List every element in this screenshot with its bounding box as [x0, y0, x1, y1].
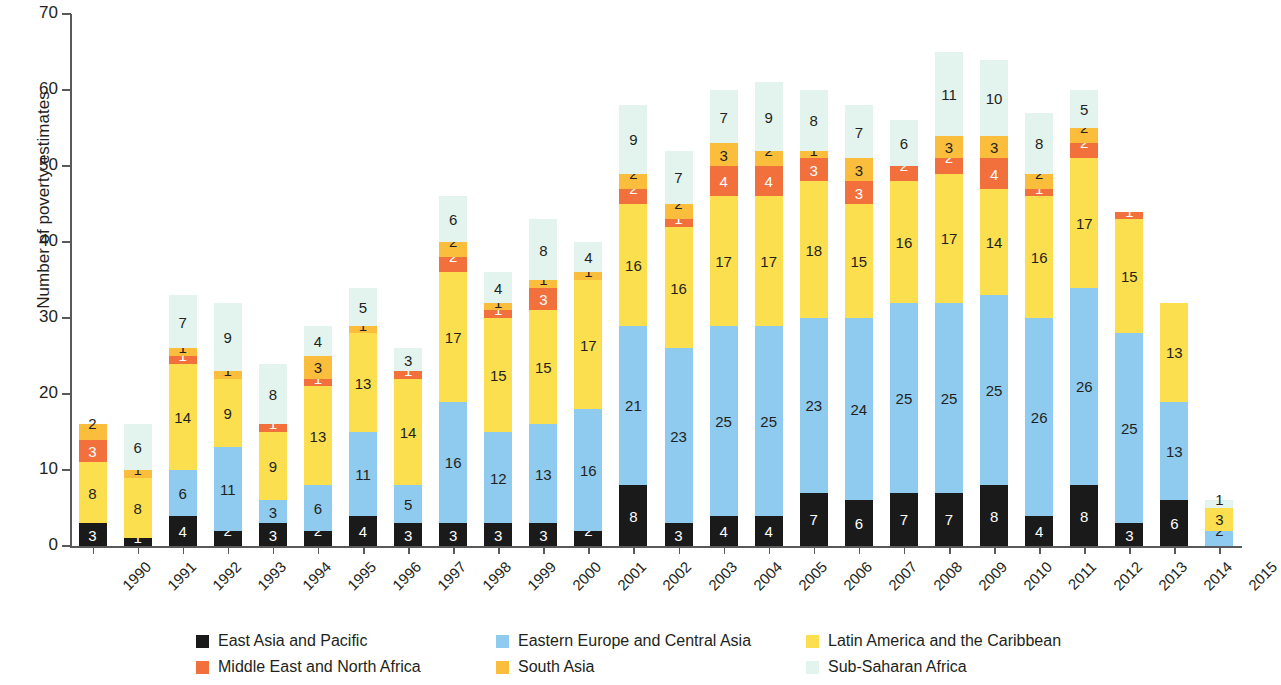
bar-segment-1995-south-asia[interactable]: 3 — [304, 356, 332, 379]
bar-segment-2011-latin-america-and-the-caribbean[interactable]: 16 — [1025, 196, 1053, 318]
bar-segment-2015-eastern-europe-and-central-asia[interactable]: 2 — [1205, 531, 1233, 546]
bar-segment-2006-latin-america-and-the-caribbean[interactable]: 18 — [800, 181, 828, 318]
bar-segment-2001-south-asia[interactable]: 1 — [574, 272, 602, 280]
bar-segment-2004-eastern-europe-and-central-asia[interactable]: 25 — [710, 326, 738, 516]
bar-segment-1999-eastern-europe-and-central-asia[interactable]: 12 — [484, 432, 512, 523]
bar-2013[interactable]: 325151 — [1115, 212, 1143, 546]
bar-segment-2013-east-asia-and-pacific[interactable]: 3 — [1115, 523, 1143, 546]
bar-segment-2003-eastern-europe-and-central-asia[interactable]: 23 — [665, 348, 693, 523]
bar-segment-1996-south-asia[interactable]: 1 — [349, 326, 377, 334]
bar-segment-2004-middle-east-and-north-africa[interactable]: 4 — [710, 166, 738, 196]
bar-segment-2006-south-asia[interactable]: 1 — [800, 151, 828, 159]
bar-segment-2005-latin-america-and-the-caribbean[interactable]: 17 — [755, 196, 783, 325]
bar-segment-1993-south-asia[interactable]: 1 — [214, 371, 242, 379]
bar-1990[interactable]: 3832 — [79, 424, 107, 546]
bar-2012[interactable]: 82617225 — [1070, 90, 1098, 546]
bar-1998[interactable]: 31617226 — [439, 196, 467, 546]
bar-segment-2005-south-asia[interactable]: 2 — [755, 151, 783, 166]
bar-segment-1991-east-asia-and-pacific[interactable]: 1 — [124, 538, 152, 546]
bar-segment-1990-east-asia-and-pacific[interactable]: 3 — [79, 523, 107, 546]
bar-segment-2009-middle-east-and-north-africa[interactable]: 2 — [935, 158, 963, 173]
bar-segment-2005-east-asia-and-pacific[interactable]: 4 — [755, 516, 783, 546]
bar-2005[interactable]: 42517429 — [755, 82, 783, 546]
bar-2004[interactable]: 42517437 — [710, 90, 738, 546]
bar-segment-2006-middle-east-and-north-africa[interactable]: 3 — [800, 158, 828, 181]
bar-segment-2011-east-asia-and-pacific[interactable]: 4 — [1025, 516, 1053, 546]
bar-segment-2008-middle-east-and-north-africa[interactable]: 2 — [890, 166, 918, 181]
bar-2007[interactable]: 62415337 — [845, 105, 873, 546]
bar-segment-2014-east-asia-and-pacific[interactable]: 6 — [1160, 500, 1188, 546]
bar-segment-2013-latin-america-and-the-caribbean[interactable]: 15 — [1115, 219, 1143, 333]
bar-segment-2007-middle-east-and-north-africa[interactable]: 3 — [845, 181, 873, 204]
bar-segment-2013-middle-east-and-north-africa[interactable]: 1 — [1115, 212, 1143, 220]
bar-segment-1996-sub-saharan-africa[interactable]: 5 — [349, 288, 377, 326]
bar-segment-1997-eastern-europe-and-central-asia[interactable]: 5 — [394, 485, 422, 523]
bar-segment-2005-middle-east-and-north-africa[interactable]: 4 — [755, 166, 783, 196]
bar-2010[interactable]: 825144310 — [980, 60, 1008, 546]
bar-segment-2010-latin-america-and-the-caribbean[interactable]: 14 — [980, 189, 1008, 295]
bar-2011[interactable]: 42616128 — [1025, 113, 1053, 546]
bar-segment-2000-east-asia-and-pacific[interactable]: 3 — [529, 523, 557, 546]
bar-segment-1990-middle-east-and-north-africa[interactable]: 3 — [79, 440, 107, 463]
bar-1993[interactable]: 211919 — [214, 303, 242, 546]
bar-segment-1998-south-asia[interactable]: 2 — [439, 242, 467, 257]
bar-segment-2011-south-asia[interactable]: 2 — [1025, 174, 1053, 189]
bar-segment-1991-sub-saharan-africa[interactable]: 6 — [124, 424, 152, 470]
bar-segment-1999-latin-america-and-the-caribbean[interactable]: 15 — [484, 318, 512, 432]
bar-segment-1998-middle-east-and-north-africa[interactable]: 2 — [439, 257, 467, 272]
bar-1997[interactable]: 351413 — [394, 348, 422, 546]
bar-segment-1992-sub-saharan-africa[interactable]: 7 — [169, 295, 197, 348]
bar-segment-2010-south-asia[interactable]: 3 — [980, 136, 1008, 159]
bar-segment-2009-east-asia-and-pacific[interactable]: 7 — [935, 493, 963, 546]
bar-segment-2009-latin-america-and-the-caribbean[interactable]: 17 — [935, 174, 963, 303]
bar-1995[interactable]: 2613134 — [304, 326, 332, 546]
bar-segment-2006-east-asia-and-pacific[interactable]: 7 — [800, 493, 828, 546]
bar-segment-2000-middle-east-and-north-africa[interactable]: 3 — [529, 288, 557, 311]
bar-segment-1996-east-asia-and-pacific[interactable]: 4 — [349, 516, 377, 546]
bar-segment-2004-east-asia-and-pacific[interactable]: 4 — [710, 516, 738, 546]
bar-segment-1996-eastern-europe-and-central-asia[interactable]: 11 — [349, 432, 377, 516]
bar-segment-1998-eastern-europe-and-central-asia[interactable]: 16 — [439, 402, 467, 524]
bar-2015[interactable]: 231 — [1205, 500, 1233, 546]
bar-segment-2013-eastern-europe-and-central-asia[interactable]: 25 — [1115, 333, 1143, 523]
bar-segment-2010-eastern-europe-and-central-asia[interactable]: 25 — [980, 295, 1008, 485]
bar-segment-1995-latin-america-and-the-caribbean[interactable]: 13 — [304, 386, 332, 485]
bar-segment-2002-south-asia[interactable]: 2 — [619, 174, 647, 189]
bar-segment-1995-eastern-europe-and-central-asia[interactable]: 6 — [304, 485, 332, 531]
bar-segment-2007-latin-america-and-the-caribbean[interactable]: 15 — [845, 204, 873, 318]
bar-segment-2014-eastern-europe-and-central-asia[interactable]: 13 — [1160, 402, 1188, 501]
bar-segment-1997-east-asia-and-pacific[interactable]: 3 — [394, 523, 422, 546]
bar-segment-2004-latin-america-and-the-caribbean[interactable]: 17 — [710, 196, 738, 325]
bar-segment-2012-east-asia-and-pacific[interactable]: 8 — [1070, 485, 1098, 546]
bar-segment-1994-sub-saharan-africa[interactable]: 8 — [259, 364, 287, 425]
bar-segment-2010-middle-east-and-north-africa[interactable]: 4 — [980, 158, 1008, 188]
bar-segment-1991-south-asia[interactable]: 1 — [124, 470, 152, 478]
bar-segment-2005-eastern-europe-and-central-asia[interactable]: 25 — [755, 326, 783, 516]
bar-segment-1995-east-asia-and-pacific[interactable]: 2 — [304, 531, 332, 546]
bar-segment-1994-east-asia-and-pacific[interactable]: 3 — [259, 523, 287, 546]
bar-2014[interactable]: 61313 — [1160, 303, 1188, 546]
bar-segment-2002-east-asia-and-pacific[interactable]: 8 — [619, 485, 647, 546]
bar-segment-2006-eastern-europe-and-central-asia[interactable]: 23 — [800, 318, 828, 493]
bar-segment-2012-sub-saharan-africa[interactable]: 5 — [1070, 90, 1098, 128]
legend-item-middle-east-and-north-africa[interactable]: Middle East and North Africa — [196, 654, 496, 680]
legend-item-east-asia-and-pacific[interactable]: East Asia and Pacific — [196, 628, 496, 654]
bar-segment-2005-sub-saharan-africa[interactable]: 9 — [755, 82, 783, 150]
bar-segment-2001-sub-saharan-africa[interactable]: 4 — [574, 242, 602, 272]
bar-1992[interactable]: 4614117 — [169, 295, 197, 546]
bar-segment-2008-sub-saharan-africa[interactable]: 6 — [890, 120, 918, 166]
bar-segment-2011-eastern-europe-and-central-asia[interactable]: 26 — [1025, 318, 1053, 516]
bar-segment-1993-east-asia-and-pacific[interactable]: 2 — [214, 531, 242, 546]
bar-segment-2003-south-asia[interactable]: 2 — [665, 204, 693, 219]
bar-segment-2004-south-asia[interactable]: 3 — [710, 143, 738, 166]
bar-segment-2004-sub-saharan-africa[interactable]: 7 — [710, 90, 738, 143]
bar-segment-2008-east-asia-and-pacific[interactable]: 7 — [890, 493, 918, 546]
bar-segment-2002-latin-america-and-the-caribbean[interactable]: 16 — [619, 204, 647, 326]
bar-segment-2012-eastern-europe-and-central-asia[interactable]: 26 — [1070, 288, 1098, 486]
bar-2001[interactable]: 2161714 — [574, 242, 602, 546]
bar-segment-2008-eastern-europe-and-central-asia[interactable]: 25 — [890, 303, 918, 493]
bar-segment-2003-latin-america-and-the-caribbean[interactable]: 16 — [665, 227, 693, 349]
bar-segment-1993-latin-america-and-the-caribbean[interactable]: 9 — [214, 379, 242, 447]
bar-segment-2011-sub-saharan-africa[interactable]: 8 — [1025, 113, 1053, 174]
bar-segment-1999-sub-saharan-africa[interactable]: 4 — [484, 272, 512, 302]
